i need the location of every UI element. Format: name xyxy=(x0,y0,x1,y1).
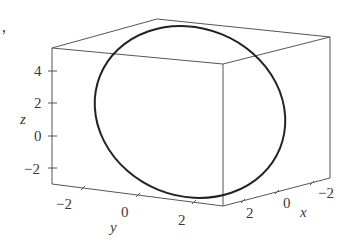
y-tick-neg2: −2 xyxy=(56,196,72,212)
z-tick-neg2: −2 xyxy=(24,161,40,177)
x-tick-0: 0 xyxy=(283,195,291,211)
bounding-box xyxy=(52,19,330,206)
plot-3d: 4 2 0 −2 z −2 0 2 y 2 0 −2 x xyxy=(0,0,351,244)
z-tick-4: 4 xyxy=(34,63,42,79)
y-tick-2: 2 xyxy=(178,212,186,228)
y-tick-0: 0 xyxy=(121,204,129,220)
y-axis-label: y xyxy=(108,219,117,235)
x-tick-neg2: −2 xyxy=(318,185,334,201)
z-tick-0: 0 xyxy=(34,128,42,144)
x-axis-ticks xyxy=(241,181,314,203)
x-tick-2: 2 xyxy=(246,205,254,221)
z-tick-2: 2 xyxy=(34,95,42,111)
z-axis-label: z xyxy=(19,111,26,127)
x-axis-label: x xyxy=(299,204,307,220)
